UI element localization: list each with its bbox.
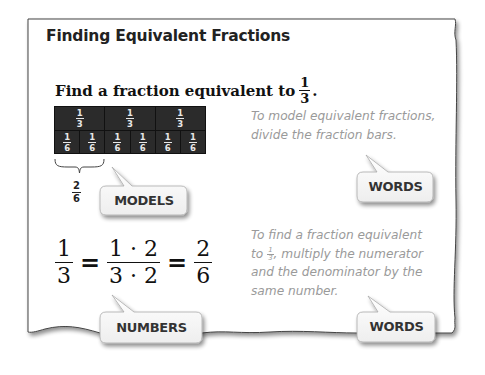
equation-fraction-1: 13 [55,238,73,287]
fraction-bar-model: 13 13 13 16 16 16 16 16 16 [54,106,206,154]
sixth-cell: 16 [130,131,155,154]
prompt-fraction: 1 3 [299,76,310,105]
callout-models: MODELS [100,193,188,208]
problem-prompt: Find a fraction equivalent to 1 3 . [55,76,317,105]
sixth-cell: 16 [55,131,79,154]
sixth-cell: 16 [104,131,129,154]
words-explanation-numbers: To find a fraction equivalent to 13, mul… [251,226,456,300]
prompt-text: Find a fraction equivalent to [55,82,295,100]
callout-numbers: NUMBERS [100,320,203,335]
sixth-cell: 16 [79,131,104,154]
equation-fraction-3: 26 [194,238,212,287]
words-explanation-models: To model equivalent fractions, divide th… [251,107,456,144]
third-cell: 13 [104,107,154,130]
brace-label: 26 [72,180,81,204]
section-title: Finding Equivalent Fractions [46,27,290,45]
equation: 13 = 1 · 23 · 2 = 26 [55,238,212,287]
callout-words-top: WORDS [357,179,434,194]
thirds-row: 13 13 13 [55,107,205,130]
sixth-cell: 16 [155,131,180,154]
third-cell: 13 [155,107,205,130]
equation-fraction-2: 1 · 23 · 2 [107,238,160,287]
equals-sign: = [167,248,187,277]
third-cell: 13 [55,107,104,130]
equals-sign: = [80,248,100,277]
sixths-row: 16 16 16 16 16 16 [55,130,205,154]
sixth-cell: 16 [180,131,205,154]
callout-words-bottom: WORDS [357,319,436,334]
